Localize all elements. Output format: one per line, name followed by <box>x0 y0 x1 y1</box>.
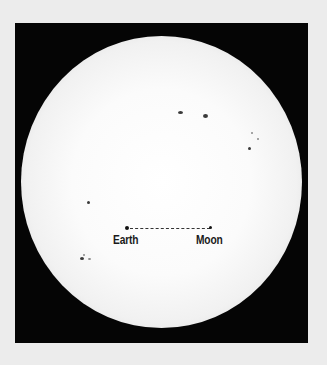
sunspot <box>257 138 259 140</box>
sunspot <box>88 258 91 260</box>
sunspot <box>83 254 85 256</box>
black-frame <box>15 23 308 343</box>
sunspot <box>248 147 251 150</box>
earth-label: Earth <box>113 233 138 247</box>
sunspot <box>80 257 84 260</box>
sunspot <box>251 132 253 134</box>
sun-disc <box>21 36 302 328</box>
sunspot <box>203 114 208 118</box>
sunspot <box>87 201 90 204</box>
moon-marker <box>209 226 212 229</box>
sunspot <box>178 111 183 114</box>
earth-marker <box>125 226 129 230</box>
earth-moon-distance-line <box>130 228 210 229</box>
moon-label: Moon <box>196 233 223 247</box>
